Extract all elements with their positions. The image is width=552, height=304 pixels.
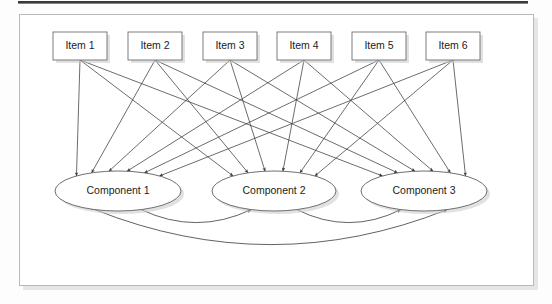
top-rule [18, 1, 528, 4]
diagram-figure: Item 1Item 2Item 3Item 4Item 5Item 6 Com… [0, 0, 552, 304]
item-3[interactable]: Item 3 [203, 32, 260, 63]
item-label: Item 6 [438, 39, 467, 51]
item-4[interactable]: Item 4 [277, 32, 334, 63]
item-6[interactable]: Item 6 [426, 32, 483, 63]
item-2[interactable]: Item 2 [128, 32, 185, 63]
item-5[interactable]: Item 5 [352, 32, 409, 63]
item-label: Item 3 [215, 39, 244, 51]
item-label: Item 5 [364, 39, 393, 51]
component-label: Component 1 [86, 184, 149, 196]
component-nodes: Component 1Component 2Component 3 [55, 171, 490, 214]
component-label: Component 3 [392, 184, 455, 196]
item-1[interactable]: Item 1 [53, 32, 110, 63]
item-label: Item 4 [289, 39, 318, 51]
diagram-canvas: Item 1Item 2Item 3Item 4Item 5Item 6 Com… [0, 0, 552, 304]
item-label: Item 2 [140, 39, 169, 51]
component-label: Component 2 [242, 184, 305, 196]
item-label: Item 1 [65, 39, 94, 51]
